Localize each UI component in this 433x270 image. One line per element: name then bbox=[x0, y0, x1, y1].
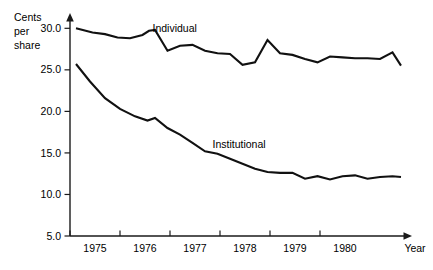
y-axis-title-line-3: share bbox=[14, 39, 40, 51]
y-axis-title-line-2: per bbox=[14, 25, 30, 37]
y-tick-label: 20.0 bbox=[41, 105, 62, 117]
chart-canvas: 5.010.015.020.025.030.0 1975197619771978… bbox=[0, 0, 433, 270]
x-tick-label: 1975 bbox=[83, 242, 107, 254]
y-tick-label: 30.0 bbox=[41, 22, 62, 34]
x-axis-group bbox=[70, 232, 412, 240]
y-tick-group: 5.010.015.020.025.030.0 bbox=[41, 22, 70, 242]
series-label-individual: Individual bbox=[153, 22, 197, 34]
y-tick-label: 15.0 bbox=[41, 147, 62, 159]
x-axis-arrow-icon bbox=[404, 232, 413, 240]
series-line-individual bbox=[76, 28, 401, 65]
x-tick-label: 1977 bbox=[183, 242, 207, 254]
series-label-institutional: Institutional bbox=[213, 138, 266, 150]
y-tick-label: 25.0 bbox=[41, 63, 62, 75]
line-chart: 5.010.015.020.025.030.0 1975197619771978… bbox=[0, 0, 433, 270]
x-tick-label: 1979 bbox=[283, 242, 307, 254]
x-tick-label: 1980 bbox=[333, 242, 357, 254]
x-tick-group: 197519761977197819791980 bbox=[70, 231, 357, 255]
y-tick-label: 10.0 bbox=[41, 188, 62, 200]
series-label-group: IndividualInstitutional bbox=[153, 22, 266, 150]
series-group bbox=[76, 28, 401, 179]
series-line-institutional bbox=[76, 64, 401, 179]
y-axis-title-line-1: Cents bbox=[14, 11, 41, 23]
y-axis-group bbox=[66, 13, 74, 236]
x-tick-label: 1978 bbox=[233, 242, 257, 254]
y-axis-arrow-icon bbox=[66, 13, 74, 22]
x-tick-label: 1976 bbox=[133, 242, 157, 254]
y-tick-label: 5.0 bbox=[46, 230, 61, 242]
x-axis-title: Year bbox=[404, 242, 426, 254]
